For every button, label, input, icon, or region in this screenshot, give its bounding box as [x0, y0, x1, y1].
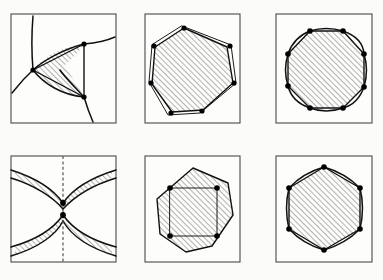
vertex-dot: [214, 233, 220, 239]
panel-3-group: [276, 14, 372, 123]
vertex-dot: [199, 108, 204, 113]
vertex-dot: [168, 110, 173, 115]
panel-4-group: [11, 156, 116, 262]
vertex-dot: [151, 43, 156, 48]
vertex-dot: [286, 185, 292, 191]
vertex-dot: [361, 84, 367, 90]
vertex-dot: [60, 212, 66, 218]
vertex-dot: [148, 80, 153, 85]
vertex-dot: [321, 247, 327, 253]
panel-6-group: [276, 156, 372, 262]
vertex-dot: [227, 43, 232, 48]
vertex-dot: [231, 80, 236, 85]
vertex-dot: [285, 83, 291, 89]
vertex-dot: [81, 41, 86, 46]
vertex-dot: [286, 226, 292, 232]
vertex-dot: [307, 28, 313, 34]
vertex-dot: [285, 51, 291, 57]
figure-root: [0, 0, 383, 280]
vertex-dot: [81, 94, 86, 99]
vertex-dot: [60, 200, 66, 206]
vertex-dot: [361, 51, 367, 57]
vertex-dot: [30, 67, 35, 72]
vertex-dot: [214, 185, 220, 191]
panel-5-group: [145, 156, 240, 262]
geometry-figure-svg: [0, 0, 383, 280]
vertex-dot: [357, 226, 363, 232]
panel-2-group: [145, 14, 240, 123]
vertex-dot: [181, 25, 186, 30]
vertex-dot: [321, 164, 327, 170]
vertex-dot: [357, 185, 363, 191]
panel-1-group: [11, 14, 116, 123]
vertex-dot: [340, 28, 346, 34]
vertex-dot: [340, 105, 346, 111]
vertex-dot: [167, 185, 173, 191]
vertex-dot: [307, 105, 313, 111]
vertex-dot: [167, 233, 173, 239]
